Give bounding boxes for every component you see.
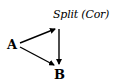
node-a: A	[7, 38, 17, 51]
node-b: B	[54, 68, 65, 81]
edge-a-to-split	[20, 29, 55, 43]
edge-a-to-b	[20, 47, 54, 65]
node-split-cor: Split (Cor)	[53, 9, 109, 21]
